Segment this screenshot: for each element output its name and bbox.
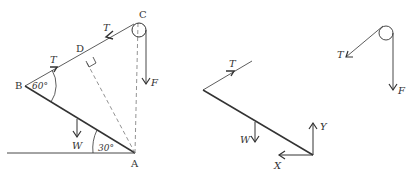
label-C: C [139, 9, 147, 20]
label-F-right: F [397, 85, 406, 96]
angle-arc-B [51, 70, 56, 102]
label-T-lower: T [50, 54, 58, 65]
string-middle [203, 61, 252, 90]
label-F: F [150, 77, 159, 88]
dashed-AC [135, 23, 138, 153]
physics-diagram: A B C D 60° 30° T T W F T W Y X T F [0, 0, 412, 184]
label-angle-B: 60° [32, 81, 48, 91]
label-A: A [130, 158, 139, 169]
label-B: B [15, 80, 22, 91]
label-T-middle: T [229, 58, 237, 69]
label-D: D [76, 43, 84, 54]
label-Y: Y [320, 121, 328, 132]
label-W: W [72, 140, 83, 151]
label-T-right: T [337, 49, 345, 60]
string-BC [25, 24, 134, 86]
rod-middle [203, 90, 313, 155]
label-W-middle: W [240, 134, 251, 145]
string-T-right [346, 26, 383, 57]
label-T-upper: T [103, 22, 111, 33]
label-angle-A: 30° [98, 143, 114, 153]
pulley-C [132, 23, 146, 37]
label-X: X [273, 160, 282, 171]
angle-arc-A [93, 130, 97, 153]
right-angle-marker [86, 57, 96, 67]
